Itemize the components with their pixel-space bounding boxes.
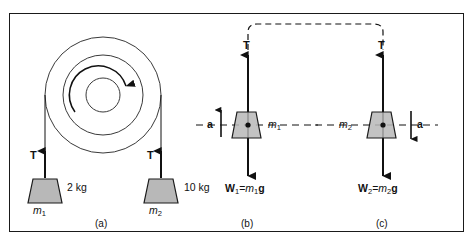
mass-symbol-b: m1 [268,119,281,131]
tension-label-c: T [378,40,385,51]
weight-mass-symbol-b: m [245,182,254,194]
tension-label-b: T [243,40,250,51]
mass-symbol-b-sub: 1 [277,123,281,132]
panel-a-caption: (a) [95,219,107,229]
pulley-inner-circle [86,78,120,112]
mass-symbol-c: m2 [339,119,352,131]
weight-equation-c: W2=m2g [358,183,398,195]
weight-symbol-c: W [358,182,368,194]
mass-symbol-right: m2 [149,205,162,217]
pulley-rotation-arrow-clockwise [69,66,126,112]
center-of-mass-dot-b [245,122,250,127]
mass-weight-label-left: 2 kg [67,182,87,193]
center-of-mass-dot-c [380,122,385,127]
acceleration-label-b: a [207,119,213,130]
panel-b-fbd-group [196,55,318,176]
tension-label-left: T [30,150,37,161]
acceleration-label-c: a [417,119,423,130]
panel-c-caption: (c) [376,219,388,229]
weight-mass-symbol-c: m [378,182,387,194]
panel-a-pulley-group [45,37,161,153]
mass-symbol-c-letter: m [339,118,348,130]
pulley-outer-circle [45,37,161,153]
dashed-rope-connector [248,24,383,50]
tension-label-right: T [147,150,154,161]
pulley-middle-circle [63,55,143,135]
figure-canvas [0,0,476,246]
mass-symbol-right-letter: m [149,204,158,216]
weight-g-symbol-c: g [391,182,397,194]
weight-g-symbol-b: g [258,182,264,194]
figure-root: T 2 kg m1 T 10 kg m2 (a) T a m1 W1=m1g (… [0,0,476,246]
block-m2 [144,179,178,203]
mass-symbol-b-letter: m [268,118,277,130]
mass-weight-label-right: 10 kg [184,182,210,193]
mass-symbol-right-sub: 2 [158,209,162,218]
panel-c-fbd-group [315,55,438,176]
block-m1 [28,179,62,203]
mass-symbol-c-sub: 2 [348,123,352,132]
mass-symbol-left-sub: 1 [42,209,46,218]
mass-symbol-left: m1 [33,205,46,217]
weight-symbol-b: W [225,182,235,194]
mass-symbol-left-letter: m [33,204,42,216]
weight-equation-b: W1=m1g [225,183,265,195]
panel-b-caption: (b) [241,219,253,229]
